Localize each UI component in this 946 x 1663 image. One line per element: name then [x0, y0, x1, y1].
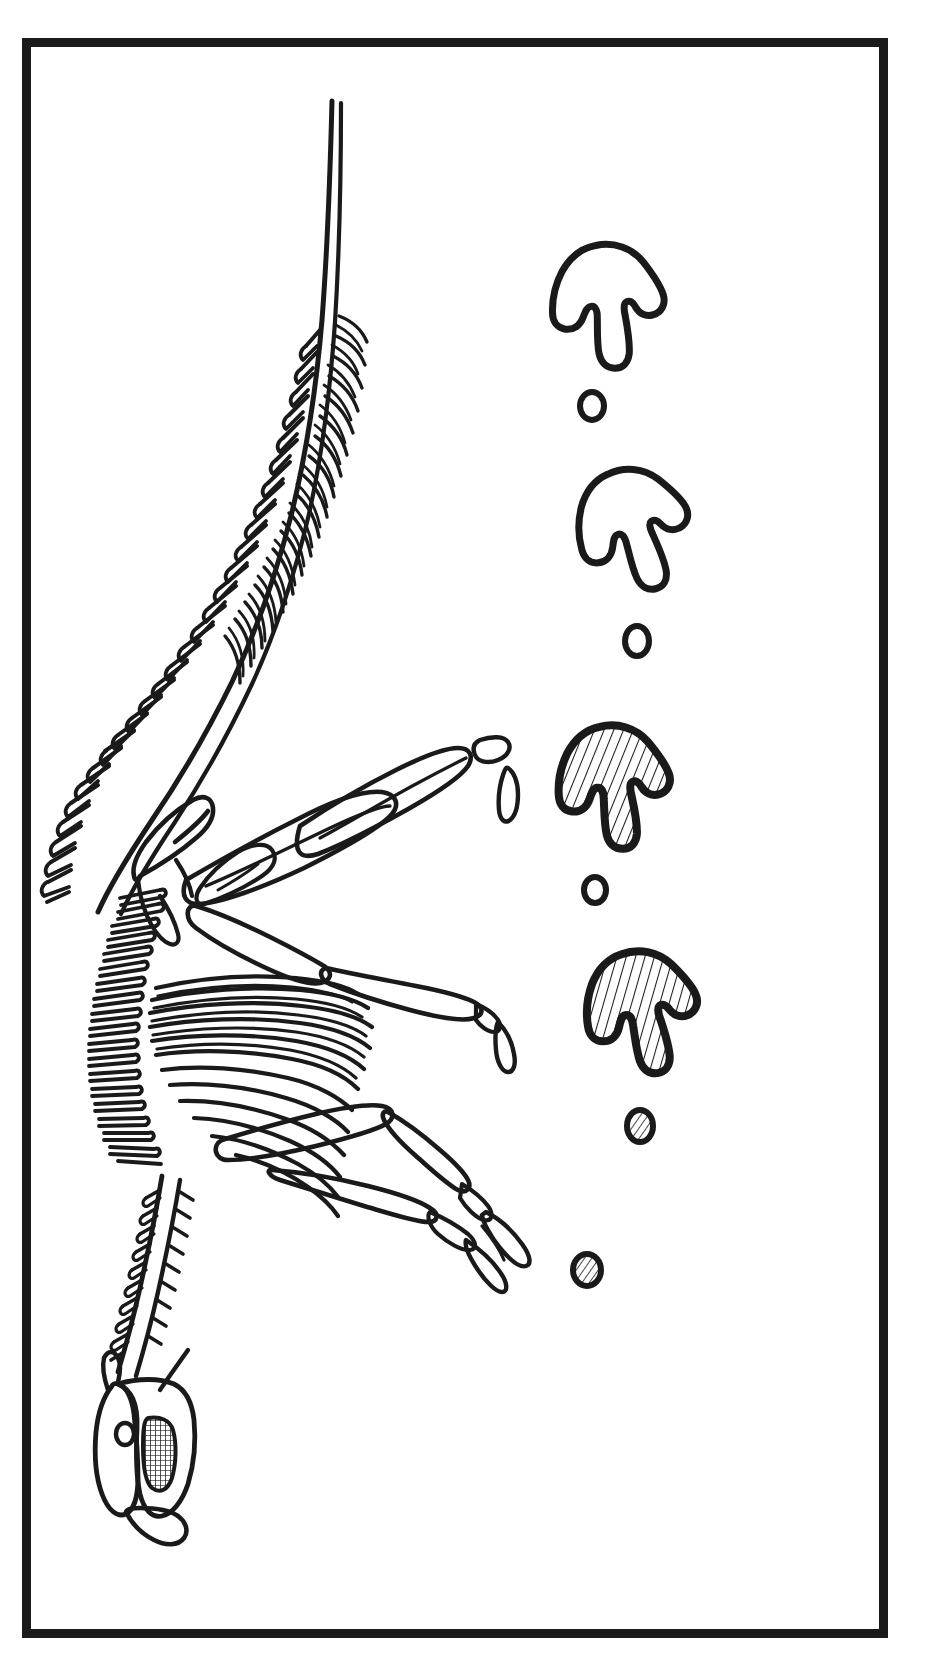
- line-drawing-canvas: [0, 0, 946, 1663]
- skull-tooth-row: [143, 1418, 176, 1491]
- dinosaur-skeleton: [42, 101, 530, 1544]
- footprint-round-mark-4-hatched: [627, 1110, 653, 1142]
- skeleton-loose-bone-fragments: [474, 737, 518, 821]
- skeleton-hindlimb: [216, 1105, 530, 1292]
- footprint-round-mark-5-hatched: [573, 1254, 601, 1286]
- page-root: Dinosaur Skeleton and Footprint Trackway…: [0, 0, 946, 1663]
- footprint-three-toed-3-hatched: [550, 718, 679, 857]
- skeleton-forelimb: [297, 748, 471, 856]
- skull-eye-socket: [116, 1423, 134, 1445]
- skeleton-skull: [95, 1352, 195, 1544]
- skeleton-neck: [111, 1176, 193, 1390]
- footprint-round-mark-2: [625, 626, 649, 656]
- footprint-three-toed-4-hatched: [573, 939, 712, 1087]
- skeleton-tail: [42, 101, 367, 914]
- footprint-three-toed-1: [546, 239, 671, 375]
- footprint-round-mark-3: [584, 877, 606, 903]
- illustration-artboard: [0, 0, 946, 1663]
- skeleton-scapula: [176, 792, 396, 905]
- neck-cervical-spines: [111, 1190, 193, 1360]
- illustration-border-frame: [27, 43, 884, 1634]
- footprint-trackway: [546, 239, 712, 1286]
- footprint-round-mark-1: [580, 392, 604, 420]
- footprint-three-toed-2: [560, 453, 708, 608]
